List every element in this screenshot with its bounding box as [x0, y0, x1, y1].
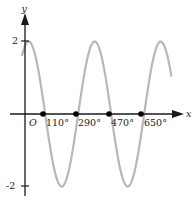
x-axis-label: x — [186, 108, 192, 119]
y-tick-label-neg2: -2 — [6, 180, 15, 191]
zero-point-650 — [138, 111, 144, 117]
x-tick-label-110: 110° — [46, 117, 69, 128]
zero-point-290 — [73, 111, 79, 117]
x-axis-arrow-icon — [172, 110, 184, 118]
x-tick-label-650: 650° — [144, 117, 167, 128]
zero-point-110 — [40, 111, 46, 117]
x-tick-label-470: 470° — [111, 117, 134, 128]
y-axis-arrow-icon — [21, 13, 29, 25]
zero-point-470 — [106, 111, 112, 117]
x-tick-label-290: 290° — [78, 117, 101, 128]
y-axis-label: y — [21, 3, 28, 14]
origin-label: O — [29, 117, 37, 128]
y-tick-label-2: 2 — [12, 35, 18, 46]
cosine-graph: y x O 2 -2 110° 290° 470° 650° — [0, 0, 196, 210]
